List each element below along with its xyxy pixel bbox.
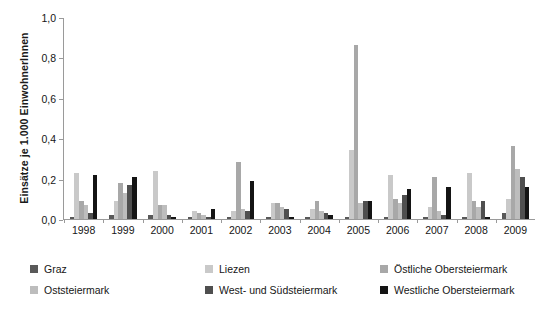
- legend-swatch-icon: [30, 265, 38, 273]
- bar: [328, 215, 333, 219]
- bar-group: [457, 18, 496, 219]
- bar: [132, 177, 137, 219]
- bar-group: [260, 18, 299, 219]
- x-tick-label: 2002: [221, 224, 260, 240]
- x-tick-label: 2001: [182, 224, 221, 240]
- y-tick-label: 0,8: [41, 52, 56, 64]
- x-tick-mark: [64, 219, 65, 223]
- bar: [354, 45, 359, 219]
- legend-swatch-icon: [205, 265, 213, 273]
- y-tick-mark: [59, 139, 63, 140]
- x-tick-mark: [103, 219, 104, 223]
- bar: [211, 209, 216, 219]
- x-tick-label: 2005: [339, 224, 378, 240]
- legend-row: GrazLiezenÖstliche Obersteiermark: [30, 258, 540, 279]
- legend-label: Graz: [44, 263, 67, 275]
- bar: [93, 175, 98, 219]
- bar-group: [221, 18, 260, 219]
- legend-label: Liezen: [219, 263, 250, 275]
- y-tick-mark: [59, 99, 63, 100]
- y-tick-mark: [59, 220, 63, 221]
- x-tick-mark: [182, 219, 183, 223]
- legend-label: Oststeiermark: [44, 284, 109, 296]
- bar-group: [417, 18, 456, 219]
- y-tick-label: 0,4: [41, 133, 56, 145]
- bar-group: [182, 18, 221, 219]
- x-tick-label: 2008: [457, 224, 496, 240]
- bar: [485, 217, 490, 219]
- x-tick-label: 2003: [260, 224, 299, 240]
- bar-groups: [64, 18, 535, 219]
- legend-item[interactable]: Westliche Obersteiermark: [380, 284, 540, 296]
- bar: [250, 181, 255, 219]
- bar: [368, 201, 373, 219]
- y-tick-label: 0,0: [41, 214, 56, 226]
- x-tick-label: 2009: [496, 224, 535, 240]
- chart-container: Einsätze je 1.000 EinwohnerInnen 1,00,80…: [0, 0, 545, 325]
- x-tick-label: 2000: [143, 224, 182, 240]
- bar-group: [300, 18, 339, 219]
- bar: [407, 189, 412, 219]
- y-tick-label: 0,2: [41, 174, 56, 186]
- chart-legend: GrazLiezenÖstliche ObersteiermarkOststei…: [30, 258, 540, 300]
- x-tick-mark: [221, 219, 222, 223]
- plot-area: 1,00,80,60,40,20,0: [63, 18, 535, 220]
- x-tick-label: 1999: [103, 224, 142, 240]
- legend-swatch-icon: [205, 286, 213, 294]
- bar: [289, 217, 294, 219]
- legend-label: Westliche Obersteiermark: [394, 284, 515, 296]
- bar-group: [378, 18, 417, 219]
- y-tick-mark: [59, 180, 63, 181]
- x-tick-mark: [260, 219, 261, 223]
- legend-swatch-icon: [30, 286, 38, 294]
- legend-item[interactable]: Liezen: [205, 263, 380, 275]
- legend-item[interactable]: Östliche Obersteiermark: [380, 263, 540, 275]
- bar-group: [103, 18, 142, 219]
- bar-group: [64, 18, 103, 219]
- bar: [446, 187, 451, 219]
- legend-item[interactable]: Graz: [30, 263, 205, 275]
- legend-label: Östliche Obersteiermark: [394, 263, 507, 275]
- x-tick-mark: [378, 219, 379, 223]
- legend-row: OststeiermarkWest- und SüdsteiermarkWest…: [30, 279, 540, 300]
- x-tick-mark: [339, 219, 340, 223]
- y-tick-mark: [59, 18, 63, 19]
- x-tick-mark: [143, 219, 144, 223]
- legend-swatch-icon: [380, 286, 388, 294]
- x-tick-label: 2004: [300, 224, 339, 240]
- x-tick-mark: [457, 219, 458, 223]
- legend-label: West- und Südsteiermark: [219, 284, 337, 296]
- y-axis-title: Einsätze je 1.000 EinwohnerInnen: [18, 8, 30, 228]
- bar-group: [339, 18, 378, 219]
- bar-group: [496, 18, 535, 219]
- x-tick-mark: [300, 219, 301, 223]
- bar: [171, 217, 176, 219]
- x-tick-mark: [496, 219, 497, 223]
- legend-swatch-icon: [380, 265, 388, 273]
- x-axis-labels: 1998199920002001200220032004200520062007…: [64, 224, 535, 240]
- y-tick-label: 1,0: [41, 12, 56, 24]
- bar-group: [143, 18, 182, 219]
- legend-item[interactable]: Oststeiermark: [30, 284, 205, 296]
- legend-item[interactable]: West- und Südsteiermark: [205, 284, 380, 296]
- x-tick-label: 2007: [417, 224, 456, 240]
- y-tick-label: 0,6: [41, 93, 56, 105]
- x-tick-mark: [417, 219, 418, 223]
- x-tick-label: 1998: [64, 224, 103, 240]
- bar: [525, 187, 530, 219]
- y-tick-mark: [59, 58, 63, 59]
- x-tick-label: 2006: [378, 224, 417, 240]
